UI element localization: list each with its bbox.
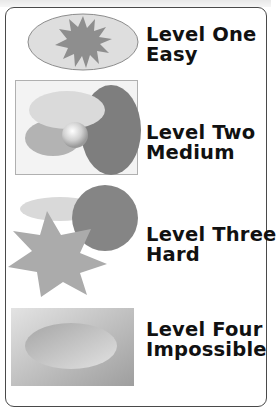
level-three-option[interactable]: Level Three Hard (0, 185, 271, 295)
starburst-in-ellipse-icon (24, 10, 144, 80)
level-difficulty: Easy (146, 45, 257, 65)
level-difficulty: Medium (146, 143, 255, 163)
level-title: Level Two (146, 123, 255, 143)
star-circle-ellipse-icon (5, 185, 145, 295)
level-title: Level Three (146, 225, 277, 245)
level-title: Level One (146, 25, 257, 45)
overlapping-ellipses-sphere-icon (15, 80, 139, 176)
level-four-option[interactable]: Level Four Impossible (0, 300, 271, 395)
level-one-label: Level One Easy (146, 25, 257, 65)
level-two-option[interactable]: Level Two Medium (0, 80, 271, 180)
ellipse-in-gradient-box-icon (11, 308, 135, 388)
level-difficulty: Impossible (146, 340, 267, 360)
level-three-label: Level Three Hard (146, 225, 277, 265)
level-four-label: Level Four Impossible (146, 320, 267, 360)
level-one-option[interactable]: Level One Easy (0, 0, 271, 72)
level-difficulty: Hard (146, 245, 277, 265)
level-title: Level Four (146, 320, 267, 340)
level-two-label: Level Two Medium (146, 123, 255, 163)
